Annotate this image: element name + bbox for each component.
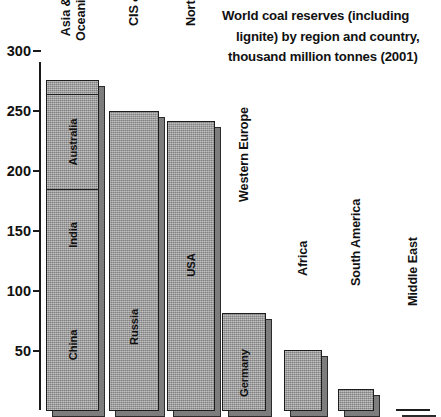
bar-segment-label: Germany <box>238 349 250 397</box>
bar-segment[interactable]: USA <box>168 121 214 410</box>
category-label: CIS & E. Europe <box>127 0 141 26</box>
category-label: North America <box>184 0 198 26</box>
bar-segment-label: Russia <box>128 309 140 345</box>
category-label: Africa <box>296 241 310 276</box>
bar-asia-oceania[interactable]: ChinaIndiaAustralia <box>46 80 99 411</box>
bar-segment-label: Australia <box>67 119 79 166</box>
bar-cis-e-europe[interactable]: Russia <box>109 111 159 411</box>
bar-middle-east[interactable] <box>396 409 430 411</box>
bar-segment-label: India <box>67 222 79 248</box>
bar-south-america[interactable] <box>338 389 374 411</box>
bar-segment-label: USA <box>185 253 197 276</box>
category-label: Asia &Oceania <box>59 0 88 41</box>
bar-segment[interactable] <box>47 80 98 95</box>
category-label: South America <box>349 199 363 286</box>
bar-segment[interactable]: Germany <box>223 336 265 410</box>
bar-segment[interactable] <box>339 389 373 410</box>
bar-segment[interactable] <box>110 111 158 244</box>
bar-segment[interactable]: Australia <box>47 94 98 189</box>
bar-segment[interactable]: India <box>47 189 98 279</box>
bar-western-europe[interactable]: Germany <box>222 313 266 411</box>
bar-north-america[interactable]: USA <box>167 121 215 411</box>
category-label: Western Europe <box>237 107 251 202</box>
category-label: Middle East <box>406 237 420 306</box>
bar-segment[interactable]: China <box>47 279 98 410</box>
bar-segment[interactable] <box>285 350 321 410</box>
bar-segment[interactable] <box>397 409 429 410</box>
bar-segment-label: China <box>67 329 79 360</box>
bar-segment[interactable]: Russia <box>110 244 158 410</box>
bar-segment[interactable] <box>223 313 265 336</box>
bar-africa[interactable] <box>284 350 322 411</box>
